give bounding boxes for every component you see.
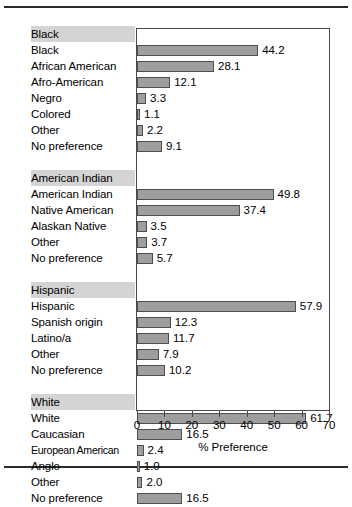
bar <box>137 253 153 264</box>
category-label: Latino/a <box>31 330 135 346</box>
x-axis-tick <box>329 411 330 417</box>
category-label: Alaskan Native <box>31 218 135 234</box>
bar <box>137 93 146 104</box>
bar <box>137 189 274 200</box>
category-label: No preference <box>31 362 135 378</box>
bar <box>137 61 214 72</box>
bar <box>137 221 147 232</box>
category-label: Anglo <box>31 458 135 474</box>
x-axis-tick <box>219 411 220 417</box>
category-label: Other <box>31 346 135 362</box>
bar-value-label: 9.1 <box>166 139 182 155</box>
bar <box>137 237 147 248</box>
bar <box>137 109 140 120</box>
bar <box>137 141 162 152</box>
category-label: Spanish origin <box>31 314 135 330</box>
category-label: No preference <box>31 250 135 266</box>
category-label: African American <box>31 58 135 74</box>
group-spacer <box>31 266 135 282</box>
bar <box>137 301 296 312</box>
x-axis-tick <box>137 411 138 417</box>
bar-value-label: 3.7 <box>151 235 167 251</box>
bar <box>137 493 182 504</box>
x-axis-tick-label: 20 <box>177 418 207 432</box>
plot-frame: 44.228.112.13.31.12.29.149.837.43.53.75.… <box>136 28 330 411</box>
bar-value-label: 37.4 <box>244 203 266 219</box>
x-axis-tick-label: 40 <box>232 418 262 432</box>
x-axis-tick-label: 70 <box>314 418 344 432</box>
bar <box>137 349 159 360</box>
bar-value-label: 1.1 <box>144 107 160 123</box>
x-axis-tick-label: 60 <box>287 418 317 432</box>
bar <box>137 477 142 488</box>
bar <box>137 365 165 376</box>
bar-value-label: 3.3 <box>150 91 166 107</box>
category-label: No preference <box>31 490 135 506</box>
bar-value-label: 7.9 <box>163 347 179 363</box>
page-rule-top <box>4 6 348 8</box>
group-header-hispanic: Hispanic <box>31 282 135 298</box>
x-axis-tick-label: 50 <box>259 418 289 432</box>
x-axis-tick <box>164 411 165 417</box>
category-label: Afro-American <box>31 74 135 90</box>
bar <box>137 77 170 88</box>
category-label: European American <box>31 442 135 458</box>
bar-value-label: 10.2 <box>169 363 191 379</box>
bar-value-label: 2.0 <box>146 475 162 491</box>
x-axis-tick-label: 30 <box>204 418 234 432</box>
x-axis-tick-label: 0 <box>122 418 152 432</box>
bar-value-label: 3.5 <box>151 219 167 235</box>
bar <box>137 333 169 344</box>
category-label: Black <box>31 42 135 58</box>
bar <box>137 125 143 136</box>
bar-value-label: 16.5 <box>186 491 208 507</box>
bar <box>137 205 240 216</box>
bar <box>137 45 258 56</box>
group-header-black: Black <box>31 26 135 42</box>
bar-value-label: 5.7 <box>157 251 173 267</box>
category-label: Negro <box>31 90 135 106</box>
group-header-american-indian: American Indian <box>31 170 135 186</box>
category-label-column: BlackBlackAfrican AmericanAfro-AmericanN… <box>31 26 135 506</box>
category-label: American Indian <box>31 186 135 202</box>
bar-value-label: 57.9 <box>300 299 322 315</box>
category-label: Native American <box>31 202 135 218</box>
bar <box>137 461 140 472</box>
category-label: Other <box>31 474 135 490</box>
category-label: Colored <box>31 106 135 122</box>
bar <box>137 317 171 328</box>
x-axis-tick <box>192 411 193 417</box>
bar-value-label: 12.3 <box>175 315 197 331</box>
x-axis-tick <box>247 411 248 417</box>
x-axis-tick-label: 10 <box>149 418 179 432</box>
x-axis-tick-labels: 010203040506070 <box>106 418 352 432</box>
group-header-white: White <box>31 394 135 410</box>
bar-value-label: 11.7 <box>173 331 195 347</box>
bar-value-label: 49.8 <box>278 187 300 203</box>
category-label: Other <box>31 234 135 250</box>
x-axis-tick <box>274 411 275 417</box>
bar-value-label: 2.2 <box>147 123 163 139</box>
bar-value-label: 12.1 <box>174 75 196 91</box>
x-axis-tick <box>302 411 303 417</box>
x-axis-title: % Preference <box>136 441 330 453</box>
plot-area: 44.228.112.13.31.12.29.149.837.43.53.75.… <box>137 29 329 410</box>
category-label: Other <box>31 122 135 138</box>
bar-value-label: 44.2 <box>262 43 284 59</box>
bar-value-label: 1.0 <box>144 459 160 475</box>
bar-value-label: 28.1 <box>218 59 240 75</box>
category-label: No preference <box>31 138 135 154</box>
x-axis-ticks <box>136 411 330 417</box>
category-label: Hispanic <box>31 298 135 314</box>
group-spacer <box>31 378 135 394</box>
group-spacer <box>31 154 135 170</box>
